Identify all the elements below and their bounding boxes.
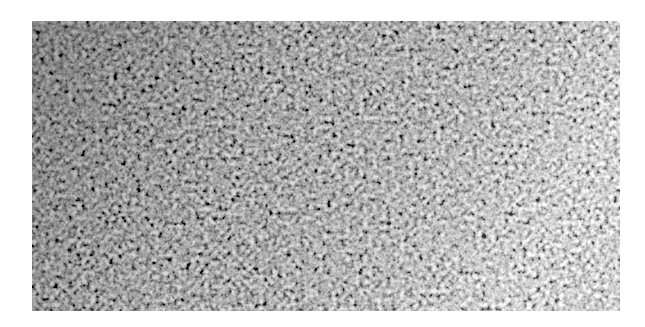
image-description: Grayscale speckle / granular noise textu…	[0, 0, 1, 1]
noise-texture	[32, 21, 620, 311]
speckle-texture-image	[32, 21, 620, 311]
